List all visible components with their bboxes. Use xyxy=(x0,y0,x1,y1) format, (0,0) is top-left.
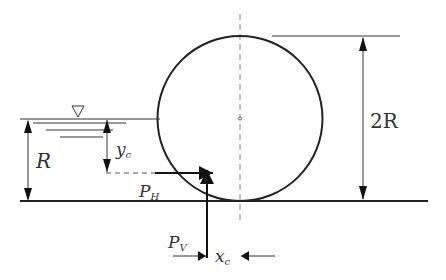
cylinder-diagram: R yc PH PV xc 2R xyxy=(0,0,446,280)
ph-label: PH xyxy=(138,181,159,202)
yc-label: yc xyxy=(115,139,132,160)
radius-label: R xyxy=(35,149,51,173)
diameter-label: 2R xyxy=(370,109,399,133)
center-point xyxy=(238,117,241,120)
water-level-triangle-icon xyxy=(72,106,84,117)
pv-label: PV xyxy=(167,232,188,253)
xc-label: xc xyxy=(215,246,231,267)
